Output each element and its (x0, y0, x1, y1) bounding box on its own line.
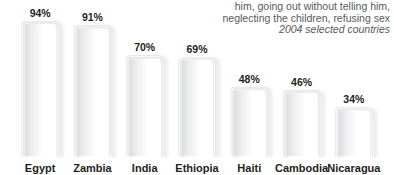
bar-inner-shade (25, 24, 56, 156)
bar-value-label: 46% (291, 76, 312, 88)
category-label: Nicaragua (327, 162, 380, 174)
bar-inner-shade (286, 93, 317, 156)
bar-value-label: 94% (30, 7, 51, 19)
category-label: India (132, 162, 158, 174)
bar-value-label: 69% (186, 43, 207, 55)
bar-inner-shade (77, 29, 108, 156)
category-label: Cambodia (275, 162, 328, 174)
category-label: Egypt (25, 162, 56, 174)
bar-value-label: 91% (82, 11, 103, 23)
bars-plot (0, 0, 394, 158)
chart-root: him, going out without telling him, negl… (0, 0, 394, 175)
bar-inner-shade (234, 90, 265, 156)
bar-inner-shade (129, 59, 160, 156)
category-label: Ethiopia (175, 162, 218, 174)
bar-value-label: 70% (134, 41, 155, 53)
category-label: Zambia (73, 162, 112, 174)
category-label: Haiti (237, 162, 261, 174)
bar-inner-shade (339, 110, 370, 156)
bar-value-label: 34% (343, 93, 364, 105)
bar-value-label: 48% (239, 73, 260, 85)
bar-inner-shade (182, 60, 213, 156)
